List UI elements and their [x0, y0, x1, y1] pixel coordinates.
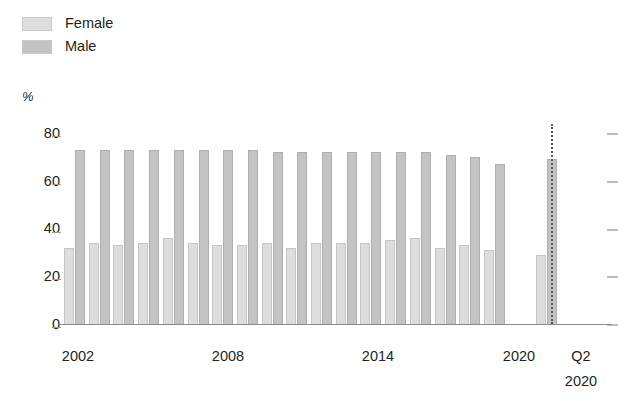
x-tick-label-line1: Q2 [571, 348, 590, 364]
plot-area [64, 133, 542, 324]
y-tick-mark-right-20 [607, 276, 618, 278]
bar-group [212, 133, 233, 324]
x-tick-label-line1: 2008 [212, 348, 244, 364]
legend-item-male[interactable]: Male [22, 35, 113, 58]
bar-group [237, 133, 258, 324]
y-tick-mark-0 [52, 327, 61, 328]
bar-male[interactable] [199, 150, 209, 324]
bar-female[interactable] [89, 243, 99, 324]
y-axis-unit-label: % [22, 89, 34, 104]
bar-female[interactable] [536, 255, 546, 324]
bar-male[interactable] [495, 164, 505, 324]
bar-female[interactable] [385, 240, 395, 324]
bar-female[interactable] [212, 245, 222, 324]
bar-group [89, 133, 110, 324]
bar-male[interactable] [371, 152, 381, 324]
bar-group [64, 133, 85, 324]
bar-group [536, 133, 557, 324]
x-tick-label-2002: 2002 [62, 348, 94, 364]
bar-male[interactable] [396, 152, 406, 324]
y-tick-mark-right-60 [607, 181, 618, 183]
y-tick-mark-right-80 [607, 133, 618, 135]
bar-male[interactable] [322, 152, 332, 324]
bar-female[interactable] [336, 243, 346, 324]
bar-male[interactable] [248, 150, 258, 324]
bar-male[interactable] [100, 150, 110, 324]
square-swatch-icon [22, 17, 52, 31]
x-axis-line [60, 324, 612, 325]
bar-male[interactable] [174, 150, 184, 324]
bar-male[interactable] [347, 152, 357, 324]
legend-item-label: Female [65, 16, 113, 31]
chart-legend: Female Male [22, 12, 113, 58]
bar-male[interactable] [421, 152, 431, 324]
x-tick-label-line2: 2020 [565, 373, 597, 389]
bar-female[interactable] [64, 248, 74, 324]
y-tick-label-60: 60 [0, 173, 60, 189]
bar-female[interactable] [484, 250, 494, 324]
bar-female[interactable] [188, 243, 198, 324]
bar-male[interactable] [297, 152, 307, 324]
bar-female[interactable] [435, 248, 445, 324]
x-tick-label-line1: 2020 [503, 348, 535, 364]
y-tick-mark-40 [52, 232, 61, 233]
bar-male[interactable] [446, 155, 456, 325]
y-tick-mark-60 [52, 184, 61, 185]
square-swatch-icon [22, 40, 52, 54]
bar-group [262, 133, 283, 324]
legend-item-label: Male [65, 39, 96, 54]
bar-male[interactable] [273, 152, 283, 324]
bar-female[interactable] [286, 248, 296, 324]
bar-male[interactable] [124, 150, 134, 324]
x-tick-label-line1: 2014 [362, 348, 394, 364]
bar-group [286, 133, 307, 324]
bar-female[interactable] [113, 245, 123, 324]
bar-group [336, 133, 357, 324]
bar-group [311, 133, 332, 324]
bar-male[interactable] [470, 157, 480, 324]
bar-group [360, 133, 381, 324]
x-tick-label-q2-2020: Q2 2020 [565, 348, 597, 389]
bar-group [459, 133, 480, 324]
bar-group [163, 133, 184, 324]
bar-group [188, 133, 209, 324]
y-tick-label-40: 40 [0, 220, 60, 236]
bar-female[interactable] [138, 243, 148, 324]
bar-chart: Female Male % 0 20 40 60 80 2002 2008 20… [0, 0, 642, 401]
x-tick-label-2008: 2008 [212, 348, 244, 364]
bar-group [113, 133, 134, 324]
x-tick-label-2014: 2014 [362, 348, 394, 364]
y-tick-label-20: 20 [0, 268, 60, 284]
x-tick-label-line1: 2002 [62, 348, 94, 364]
bar-group [435, 133, 456, 324]
bar-female[interactable] [262, 243, 272, 324]
bar-group [385, 133, 406, 324]
bar-male[interactable] [223, 150, 233, 324]
bar-female[interactable] [311, 243, 321, 324]
bar-female[interactable] [459, 245, 469, 324]
y-tick-mark-right-40 [607, 229, 618, 231]
bar-male[interactable] [149, 150, 159, 324]
bar-female[interactable] [163, 238, 173, 324]
period-divider-line [551, 124, 553, 324]
y-tick-label-0: 0 [0, 316, 60, 332]
bar-female[interactable] [360, 243, 370, 324]
x-tick-label-2020: 2020 [503, 348, 535, 364]
y-tick-mark-20 [52, 279, 61, 280]
y-tick-mark-80 [52, 136, 61, 137]
bar-male[interactable] [75, 150, 85, 324]
legend-item-female[interactable]: Female [22, 12, 113, 35]
y-tick-label-80: 80 [0, 125, 60, 141]
bar-group [138, 133, 159, 324]
bar-female[interactable] [237, 245, 247, 324]
bar-group [410, 133, 431, 324]
bar-female[interactable] [410, 238, 420, 324]
bar-group [484, 133, 505, 324]
